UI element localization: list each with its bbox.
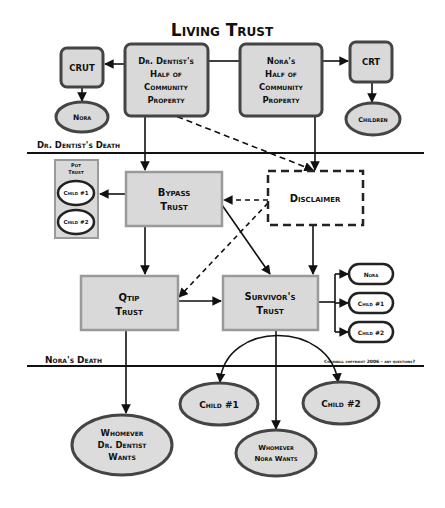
node-crut: CRUT — [61, 48, 103, 87]
whomever-nora-line1: Whomever — [258, 444, 294, 452]
node-crt: CRT — [350, 42, 392, 82]
crt-label: CRT — [362, 57, 380, 67]
nora-half-line3: Community — [259, 82, 303, 92]
pot-trust-line2: Trust — [68, 169, 84, 175]
survivor-line1: Survivor's — [244, 291, 295, 302]
node-qtip-trust: Qtip Trust — [81, 276, 178, 330]
node-right-child1: Child #1 — [349, 293, 393, 313]
bottom-child2-label: Child #2 — [321, 399, 361, 409]
right-child1-label: Child #1 — [358, 300, 384, 307]
nora-left-label: Nora — [73, 113, 91, 122]
whomever-dr-line1: Whomever — [101, 428, 144, 438]
estate-plan-diagram: Living Trust Dr. Dentist's Death Nora's … — [0, 0, 445, 508]
node-children: Children — [346, 103, 400, 135]
node-whomever-dr: Whomever Dr. Dentist Wants — [72, 415, 172, 475]
dr-half-line4: Property — [147, 95, 185, 105]
dr-half-line3: Community — [144, 82, 188, 92]
arrow-bypass-to-survivor — [222, 205, 270, 274]
children-label: Children — [358, 116, 388, 124]
bypass-line1: Bypass — [158, 187, 190, 198]
bottom-child1-label: Child #1 — [199, 400, 239, 410]
bypass-line2: Trust — [160, 201, 188, 212]
node-survivors-trust: Survivor's Trust — [223, 276, 318, 330]
node-bottom-child1: Child #1 — [180, 383, 258, 425]
dr-half-line2: Half of — [150, 69, 182, 79]
node-nora-half: Nora's Half of Community Property — [240, 44, 322, 116]
qtip-line1: Qtip — [118, 292, 139, 303]
dashed-dr-to-disclaimer — [168, 113, 313, 170]
whomever-nora-line2: Nora Wants — [254, 455, 297, 463]
crut-label: CRUT — [69, 63, 95, 73]
node-bottom-child2: Child #2 — [303, 382, 379, 424]
connectors — [82, 61, 372, 429]
node-right-child2: Child #2 — [349, 322, 393, 342]
right-child2-label: Child #2 — [358, 329, 384, 336]
pot-child2-label: Child #2 — [63, 219, 88, 225]
node-right-nora: Nora — [349, 264, 393, 284]
disclaimer-label: Disclaimer — [290, 193, 341, 204]
node-nora-left: Nora — [56, 102, 108, 132]
dr-death-label: Dr. Dentist's Death — [37, 140, 120, 150]
node-pot-trust: Pot Trust Child #1 Child #2 — [55, 160, 98, 238]
whomever-dr-line2: Dr. Dentist — [98, 440, 148, 450]
node-bypass-trust: Bypass Trust — [126, 172, 222, 226]
whomever-dr-line3: Wants — [108, 452, 135, 462]
survivor-line2: Trust — [256, 305, 284, 316]
nora-half-line2: Half of — [265, 69, 297, 79]
pot-child1-label: Child #1 — [63, 190, 88, 196]
pot-trust-line1: Pot — [71, 162, 81, 168]
diagram-title: Living Trust — [171, 20, 274, 40]
dr-half-line1: Dr. Dentist's — [138, 56, 194, 66]
node-dr-half: Dr. Dentist's Half of Community Property — [125, 44, 208, 116]
nora-half-line1: Nora's — [267, 56, 295, 66]
qtip-line2: Trust — [115, 306, 143, 317]
right-nora-label: Nora — [364, 271, 380, 278]
arc-survivor-to-children — [220, 336, 338, 383]
nora-death-label: Nora's Death — [45, 355, 102, 365]
node-disclaimer: Disclaimer — [268, 171, 363, 225]
node-whomever-nora: Whomever Nora Wants — [236, 430, 316, 476]
nora-half-line4: Property — [262, 95, 300, 105]
copyright-text: Cornwall copyright 2006 - any questions? — [324, 359, 415, 364]
